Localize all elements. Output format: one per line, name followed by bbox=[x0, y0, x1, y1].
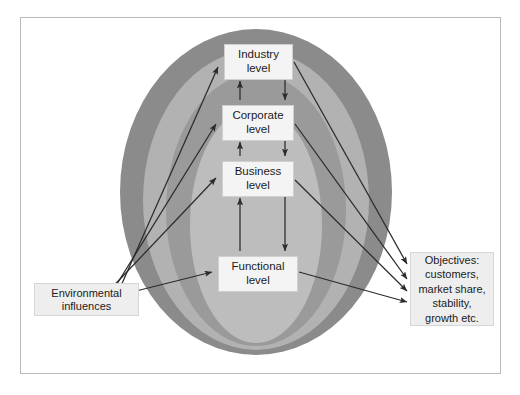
level-label-business: Business level bbox=[235, 165, 282, 192]
functional-ring bbox=[190, 107, 322, 343]
environmental-influences-box[interactable]: Environmental influences bbox=[34, 283, 139, 316]
level-box-industry[interactable]: Industry level bbox=[224, 44, 293, 80]
diagram-canvas: Industry level Corporate level Business … bbox=[0, 0, 520, 395]
level-label-industry: Industry level bbox=[238, 48, 279, 75]
level-box-corporate[interactable]: Corporate level bbox=[222, 105, 294, 141]
level-label-corporate: Corporate level bbox=[232, 109, 283, 136]
level-box-functional[interactable]: Functional level bbox=[218, 256, 298, 292]
level-box-business[interactable]: Business level bbox=[222, 161, 294, 197]
objectives-label: Objectives: customers, market share, sta… bbox=[418, 253, 485, 326]
environmental-influences-label: Environmental influences bbox=[51, 287, 121, 313]
objectives-box[interactable]: Objectives: customers, market share, sta… bbox=[410, 252, 494, 326]
level-label-functional: Functional level bbox=[231, 260, 284, 287]
